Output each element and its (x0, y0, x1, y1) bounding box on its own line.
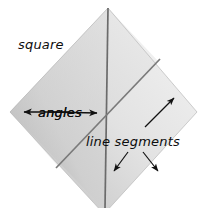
geometry-diagram: square angles angles line segments (0, 0, 201, 208)
diagram-canvas: square angles angles line segments (0, 0, 201, 208)
label-angles-overlay: angles (38, 105, 82, 120)
label-square: square (18, 37, 64, 52)
label-line-segments: line segments (86, 134, 180, 149)
